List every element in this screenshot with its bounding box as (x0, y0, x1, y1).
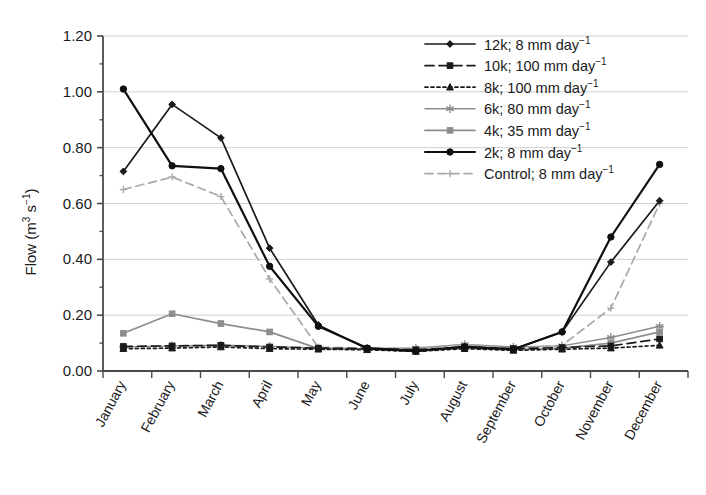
data-point (461, 344, 467, 350)
legend-label-superscript: −1 (579, 99, 591, 110)
legend-label: 10k; 100 mm day−1 (484, 56, 607, 74)
data-point (218, 321, 224, 327)
y-axis-title-tail: ) (22, 189, 39, 194)
series-12k-8-mm-day-1 (120, 101, 663, 355)
legend-item-6k[interactable]: 6k; 80 mm day−1 (425, 99, 591, 117)
data-point (266, 263, 272, 269)
chart-legend: 12k; 8 mm day−110k; 100 mm day−18k; 100 … (411, 28, 689, 200)
legend-label: 8k; 100 mm day−1 (484, 78, 599, 96)
y-tick-label: 0.80 (63, 139, 92, 156)
series-line (123, 177, 659, 349)
data-point (559, 329, 565, 335)
legend-label: 2k; 8 mm day−1 (484, 143, 583, 161)
legend-item-8k[interactable]: 8k; 100 mm day−1 (425, 78, 599, 96)
legend-label-text: 10k; 100 mm day (484, 58, 596, 74)
chart-svg: 0.000.200.400.600.801.001.20 JanuaryFebr… (0, 0, 706, 495)
legend-label: 12k; 8 mm day−1 (484, 35, 591, 53)
x-tick-label-january: January (92, 378, 130, 429)
x-tick-label-november: November (572, 378, 617, 443)
legend-label-superscript: −1 (579, 35, 591, 46)
legend-label-superscript: −1 (587, 78, 599, 89)
data-point (657, 329, 663, 335)
legend-item-12k[interactable]: 12k; 8 mm day−1 (425, 35, 591, 53)
x-tick-label-december: December (621, 378, 666, 443)
legend-swatch-marker (446, 105, 454, 113)
legend-label-text: 2k; 8 mm day (484, 145, 572, 161)
y-tick-label: 0.60 (63, 195, 92, 212)
data-point (218, 165, 224, 171)
legend-swatch-marker (447, 149, 453, 155)
legend-swatch-marker (447, 128, 453, 134)
legend-item-2k[interactable]: 2k; 8 mm day−1 (425, 143, 583, 161)
data-point (121, 331, 127, 337)
legend-label: 4k; 35 mm day−1 (484, 121, 591, 139)
y-tick-label: 1.00 (63, 83, 92, 100)
legend-item-10k[interactable]: 10k; 100 mm day−1 (425, 56, 607, 74)
data-point (656, 161, 662, 167)
y-tick-label: 1.20 (63, 27, 92, 44)
y-axis-title-sup-minus1: −1 (21, 193, 32, 205)
x-axis-tick-labels: JanuaryFebruaryMarchAprilMayJuneJulyAugu… (92, 378, 666, 446)
data-point (608, 234, 614, 240)
legend-item-control[interactable]: Control; 8 mm day−1 (425, 164, 614, 182)
x-axis-ticks (103, 371, 688, 378)
y-tick-label: 0.00 (63, 362, 92, 379)
data-point (267, 329, 273, 335)
data-point (364, 345, 370, 351)
legend-label-text: 12k; 8 mm day (484, 37, 580, 53)
data-point (413, 348, 419, 354)
data-point (217, 193, 224, 200)
legend-label-text: 6k; 80 mm day (484, 101, 580, 117)
legend-label-superscript: −1 (571, 143, 583, 154)
data-point (169, 163, 175, 169)
legend-label: 6k; 80 mm day−1 (484, 99, 591, 117)
data-point (120, 86, 126, 92)
svg-text:Flow (m3 s−1): Flow (m3 s−1) (21, 189, 39, 276)
series-line (123, 104, 659, 351)
data-point (510, 346, 516, 352)
x-tick-label-march: March (194, 378, 226, 420)
legend-label-superscript: −1 (595, 56, 607, 67)
flow-line-chart: 0.000.200.400.600.801.001.20 JanuaryFebr… (0, 0, 706, 495)
x-tick-label-may: May (297, 378, 324, 409)
legend-swatch-marker (446, 170, 453, 177)
data-point (169, 173, 176, 180)
y-axis-title-base: Flow (m (22, 222, 39, 275)
y-axis-title: Flow (m3 s−1) (21, 189, 39, 276)
legend-label: Control; 8 mm day−1 (484, 164, 614, 182)
x-tick-label-october: October (530, 378, 568, 430)
legend-label-text: Control; 8 mm day (484, 166, 603, 182)
legend-label-superscript: −1 (602, 164, 614, 175)
x-tick-label-april: April (248, 378, 275, 410)
legend-label-superscript: −1 (579, 121, 591, 132)
x-tick-label-june: June (344, 378, 372, 413)
legend-swatch-marker (447, 41, 454, 48)
legend-label-text: 8k; 100 mm day (484, 80, 588, 96)
y-axis-title-mid: s (22, 205, 39, 217)
y-tick-label: 0.20 (63, 306, 92, 323)
series-control-8-mm-day-1 (120, 173, 663, 352)
series-line (123, 326, 659, 348)
x-tick-label-july: July (396, 378, 422, 408)
x-tick-label-september: September (473, 378, 519, 446)
data-point (169, 311, 175, 317)
y-axis-tick-labels: 0.000.200.400.600.801.001.20 (63, 27, 92, 379)
legend-swatch-marker (447, 63, 453, 69)
legend-label-text: 4k; 35 mm day (484, 123, 580, 139)
data-point (315, 323, 321, 329)
x-tick-label-february: February (137, 378, 177, 435)
x-tick-label-august: August (436, 378, 471, 424)
data-point (120, 186, 127, 193)
y-tick-label: 0.40 (63, 250, 92, 267)
legend-item-4k[interactable]: 4k; 35 mm day−1 (425, 121, 591, 139)
